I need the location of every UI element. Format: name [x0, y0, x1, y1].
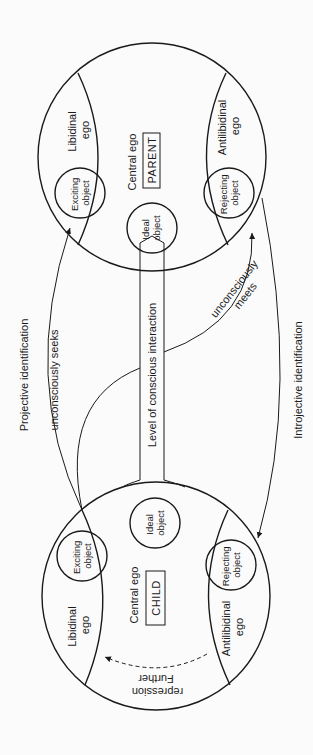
parent-libidinal-boundary [78, 73, 98, 245]
further-repression-label: repression Further [129, 673, 183, 698]
parent-antilibidinal-ego-label: Antilibidinal ego [216, 97, 241, 156]
introjective-identification-label: Introjective identification [292, 321, 304, 438]
parent-central-ego-label: Central ego [126, 134, 138, 191]
parent-box-label: PARENT [146, 137, 158, 184]
further-repression-arrow [105, 654, 207, 668]
conscious-interaction-connector: Level of conscious interaction [124, 236, 185, 487]
parent-psyche: Libidinal ego Exciting object Central eg… [38, 43, 266, 271]
introjective-identification-arrow [258, 198, 280, 538]
child-central-ego-label: Central ego [128, 567, 140, 624]
child-antilibidinal-boundary [208, 510, 230, 685]
parent-exciting-object-label: Exciting object [69, 175, 91, 211]
interaction-arrows: Projective identification unconsciously … [18, 198, 304, 538]
unconsciously-seeks-curve [77, 368, 140, 510]
child-libidinal-ego-label: Libidinal ego [66, 603, 91, 646]
child-box-label: CHILD [150, 580, 162, 616]
parent-libidinal-ego-label: Libidinal ego [66, 108, 91, 151]
connector-label: Level of conscious interaction [146, 303, 158, 447]
child-ideal-object-label: Ideal object [144, 510, 166, 536]
object-relations-diagram: Level of conscious interaction Libidinal… [0, 0, 313, 755]
child-rejecting-object-label: Rejecting object [220, 544, 242, 586]
child-exciting-object-label: Exciting object [71, 538, 93, 574]
child-psyche: Exciting object Libidinal ego Ideal obje… [42, 482, 270, 710]
unconsciously-meets-label: unconsciously meets [208, 255, 272, 327]
parent-ideal-object-label: Ideal object [140, 215, 162, 241]
parent-rejecting-object-label: Rejecting object [218, 172, 240, 214]
unconsciously-seeks-label: unconsciously seeks [48, 329, 60, 430]
child-antilibidinal-ego-label: Antilibidinal ego [220, 598, 245, 657]
child-libidinal-boundary [82, 510, 103, 685]
projective-identification-label: Projective identification [18, 319, 30, 432]
